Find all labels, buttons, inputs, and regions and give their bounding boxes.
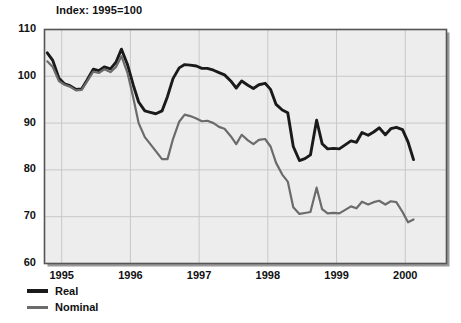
chart-figure: Index: 1995=100 60708090100110 199519961… — [0, 0, 461, 323]
x-tick-label: 1999 — [317, 269, 357, 281]
chart-legend: RealNominal — [27, 283, 98, 315]
x-tick-label: 1995 — [42, 269, 82, 281]
y-tick-label: 90 — [10, 116, 36, 128]
legend-item-nominal: Nominal — [27, 299, 98, 315]
legend-label-real: Real — [55, 285, 78, 297]
y-tick-label: 110 — [10, 22, 36, 34]
x-tick-label: 2000 — [385, 269, 425, 281]
x-tick-label: 1996 — [110, 269, 150, 281]
legend-label-nominal: Nominal — [55, 301, 98, 313]
y-tick-label: 80 — [10, 162, 36, 174]
legend-swatch-real-icon — [27, 289, 48, 293]
y-tick-label: 100 — [10, 69, 36, 81]
y-tick-label: 60 — [10, 256, 36, 268]
x-tick-label: 1998 — [248, 269, 288, 281]
legend-item-real: Real — [27, 283, 98, 299]
legend-swatch-nominal-icon — [27, 306, 48, 309]
y-tick-label: 70 — [10, 209, 36, 221]
x-tick-label: 1997 — [179, 269, 219, 281]
plot-background — [45, 30, 447, 264]
